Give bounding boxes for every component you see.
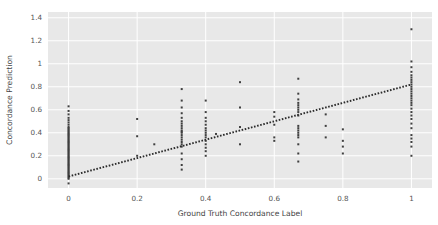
scatter-point: [205, 143, 207, 145]
scatter-point: [181, 139, 183, 141]
plot-area-background: [48, 12, 432, 188]
scatter-point: [181, 134, 183, 136]
scatter-point: [136, 155, 138, 157]
y-tick-label: 0.2: [31, 151, 42, 160]
y-tick-label: 0.8: [31, 82, 43, 91]
y-tick-label: 0.6: [31, 105, 43, 114]
scatter-point: [181, 123, 183, 125]
scatter-point: [410, 108, 412, 110]
scatter-point: [181, 143, 183, 145]
scatter-point: [205, 155, 207, 157]
scatter-point: [410, 71, 412, 73]
scatter-point: [68, 105, 70, 107]
scatter-point: [68, 121, 70, 123]
scatter-point: [68, 119, 70, 121]
scatter-point: [297, 102, 299, 104]
scatter-point: [239, 81, 241, 83]
y-axis-title: Concordance Prediction: [5, 55, 14, 145]
y-tick-label: 1.2: [31, 36, 42, 45]
scatter-point: [410, 146, 412, 148]
scatter-point: [205, 111, 207, 113]
x-tick-label: 0: [66, 194, 71, 203]
scatter-point: [297, 125, 299, 127]
y-tick-label: 0: [37, 174, 42, 183]
y-tick-label: 1: [37, 59, 42, 68]
x-tick-label: 1: [409, 194, 414, 203]
scatter-point: [410, 86, 412, 88]
scatter-point: [410, 60, 412, 62]
scatter-point: [205, 147, 207, 149]
scatter-point: [297, 134, 299, 136]
scatter-point: [205, 124, 207, 126]
scatter-point: [68, 113, 70, 115]
scatter-point: [342, 152, 344, 154]
scatter-point: [181, 106, 183, 108]
scatter-point: [297, 109, 299, 111]
scatter-point: [181, 127, 183, 129]
scatter-point: [410, 100, 412, 102]
scatter-point: [297, 98, 299, 100]
scatter-point: [342, 146, 344, 148]
scatter-point: [410, 141, 412, 143]
scatter-point: [410, 77, 412, 79]
x-tick-label: 0.8: [337, 194, 349, 203]
scatter-point: [410, 88, 412, 90]
scatter-point: [68, 110, 70, 112]
scatter-point: [68, 124, 70, 126]
scatter-point: [410, 28, 412, 30]
scatter-point: [297, 106, 299, 108]
scatter-point: [297, 143, 299, 145]
scatter-point: [239, 126, 241, 128]
scatter-point: [181, 88, 183, 90]
scatter-point: [205, 132, 207, 134]
scatter-point: [410, 155, 412, 157]
scatter-point: [410, 118, 412, 120]
scatter-point: [410, 93, 412, 95]
scatter-point: [181, 169, 183, 171]
scatter-point: [410, 74, 412, 76]
scatter-point: [273, 124, 275, 126]
x-axis-title: Ground Truth Concordance Label: [178, 209, 303, 218]
scatter-point: [297, 127, 299, 129]
scatter-point: [410, 104, 412, 106]
scatter-point: [181, 112, 183, 114]
scatter-point: [410, 79, 412, 81]
scatter-point: [325, 136, 327, 138]
scatter-point: [239, 106, 241, 108]
y-tick-label: 0.4: [31, 128, 43, 137]
scatter-point: [68, 117, 70, 119]
y-tick-label: 1.4: [31, 13, 43, 22]
scatter-point: [205, 120, 207, 122]
scatter-point: [273, 140, 275, 142]
scatter-point: [136, 118, 138, 120]
scatter-point: [297, 129, 299, 131]
scatter-point: [297, 104, 299, 106]
scatter-point: [181, 129, 183, 131]
scatter-point: [342, 140, 344, 142]
scatter-point: [205, 134, 207, 136]
scatter-point: [410, 115, 412, 117]
scatter-point: [136, 135, 138, 137]
scatter-point: [205, 117, 207, 119]
scatter-point: [205, 100, 207, 102]
scatter-point: [410, 90, 412, 92]
scatter-point: [68, 126, 70, 128]
scatter-point: [410, 138, 412, 140]
x-tick-label: 0.6: [269, 194, 281, 203]
scatter-point: [410, 127, 412, 129]
scatter-point: [181, 152, 183, 154]
scatter-point: [297, 111, 299, 113]
scatter-point: [181, 141, 183, 143]
scatter-point: [410, 97, 412, 99]
scatter-point: [181, 117, 183, 119]
scatter-point: [297, 161, 299, 163]
scatter-point: [325, 113, 327, 115]
scatter-point: [205, 136, 207, 138]
scatter-point: [297, 136, 299, 138]
scatter-point: [181, 164, 183, 166]
x-tick-label: 0.4: [200, 194, 212, 203]
scatter-point: [181, 158, 183, 160]
scatter-point: [410, 123, 412, 125]
plot-canvas: 00.20.40.60.81 00.20.40.60.811.21.4 Grou…: [0, 0, 438, 225]
scatter-plot-figure: 00.20.40.60.81 00.20.40.60.811.21.4 Grou…: [0, 0, 438, 225]
